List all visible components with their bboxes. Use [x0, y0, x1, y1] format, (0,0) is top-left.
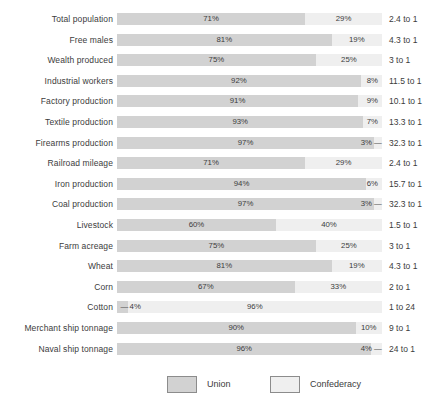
confederacy-percent-label: 40% — [276, 219, 382, 231]
row-label: Farm acreage — [0, 238, 113, 254]
ratio-label: 4.3 to 1 — [389, 258, 417, 274]
union-percent-label: 92% — [117, 75, 361, 87]
leader-dash-icon: — — [374, 198, 382, 210]
chart-row: Naval ship tonnage96%—4%24 to 1 — [0, 341, 444, 357]
ratio-label: 9 to 1 — [389, 320, 410, 336]
union-percent-label: 97% — [117, 137, 374, 149]
union-percent-label: 60% — [117, 219, 276, 231]
chart-row: Corn67%33%2 to 1 — [0, 279, 444, 295]
row-label: Iron production — [0, 176, 113, 192]
confederacy-percent-label: 3% — [346, 198, 372, 210]
legend-label-union: Union — [207, 376, 231, 393]
confederacy-percent-label: 4% — [346, 343, 372, 355]
ratio-label: 4.3 to 1 — [389, 32, 417, 48]
confederacy-percent-label: 25% — [316, 54, 382, 66]
union-percent-label: 97% — [117, 198, 374, 210]
union-percent-label: 75% — [117, 240, 316, 252]
legend-swatch-union-icon — [167, 376, 197, 393]
chart-row: Industrial workers92%8%11.5 to 1 — [0, 73, 444, 89]
union-percent-label: 67% — [117, 281, 295, 293]
ratio-label: 2.4 to 1 — [389, 11, 417, 27]
confederacy-percent-label: 10% — [356, 322, 383, 334]
row-label: Total population — [0, 11, 113, 27]
union-percent-label: 81% — [117, 34, 332, 46]
chart-row: Iron production94%6%15.7 to 1 — [0, 176, 444, 192]
row-label: Textile production — [0, 114, 113, 130]
row-label: Coal production — [0, 196, 113, 212]
union-percent-label: 75% — [117, 54, 316, 66]
chart-row: Factory production91%9%10.1 to 1 — [0, 93, 444, 109]
chart-row: Textile production93%7%13.3 to 1 — [0, 114, 444, 130]
chart-row: Farm acreage75%25%3 to 1 — [0, 238, 444, 254]
legend-label-confederacy: Confederacy — [310, 376, 361, 393]
chart-row: Wheat81%19%4.3 to 1 — [0, 258, 444, 274]
confederacy-percent-label: 96% — [128, 301, 382, 313]
row-label: Free males — [0, 32, 113, 48]
leader-dash-icon: — — [374, 343, 382, 355]
row-label: Industrial workers — [0, 73, 113, 89]
union-percent-label: 96% — [117, 343, 371, 355]
ratio-label: 2.4 to 1 — [389, 155, 417, 171]
row-label: Naval ship tonnage — [0, 341, 113, 357]
ratio-label: 10.1 to 1 — [389, 93, 422, 109]
confederacy-percent-label: 8% — [352, 75, 378, 87]
chart-row: Cotton—4%96%1 to 24 — [0, 299, 444, 315]
chart-row: Free males81%19%4.3 to 1 — [0, 32, 444, 48]
row-label: Wheat — [0, 258, 113, 274]
chart-row: Wealth produced75%25%3 to 1 — [0, 52, 444, 68]
union-percent-label: 71% — [117, 157, 305, 169]
ratio-label: 3 to 1 — [389, 238, 410, 254]
row-label: Corn — [0, 279, 113, 295]
ratio-label: 32.3 to 1 — [389, 135, 422, 151]
union-percent-label: 94% — [117, 178, 366, 190]
union-percent-label: 91% — [117, 95, 358, 107]
row-label: Merchant ship tonnage — [0, 320, 113, 336]
union-percent-label: 81% — [117, 260, 332, 272]
confederacy-percent-label: 19% — [332, 260, 382, 272]
legend-swatch-confederacy-icon — [270, 376, 300, 393]
ratio-label: 32.3 to 1 — [389, 196, 422, 212]
confederacy-percent-label: 29% — [305, 13, 382, 25]
confederacy-percent-label: 19% — [332, 34, 382, 46]
ratio-label: 1 to 24 — [389, 299, 415, 315]
ratio-label: 1.5 to 1 — [389, 217, 417, 233]
ratio-label: 11.5 to 1 — [389, 73, 421, 89]
row-label: Livestock — [0, 217, 113, 233]
confederacy-percent-label: 25% — [316, 240, 382, 252]
chart-legend: Union Confederacy — [0, 374, 444, 400]
chart-row: Coal production97%—3%32.3 to 1 — [0, 196, 444, 212]
comparison-bar-chart: Total population71%29%2.4 to 1Free males… — [0, 0, 444, 406]
union-percent-label: 90% — [117, 322, 356, 334]
ratio-label: 15.7 to 1 — [389, 176, 422, 192]
chart-row: Firearms production97%—3%32.3 to 1 — [0, 135, 444, 151]
confederacy-percent-label: 6% — [352, 178, 378, 190]
row-label: Firearms production — [0, 135, 113, 151]
confederacy-percent-label: 9% — [352, 95, 378, 107]
chart-row: Railroad mileage71%29%2.4 to 1 — [0, 155, 444, 171]
confederacy-percent-label: 7% — [352, 116, 378, 128]
chart-row: Livestock60%40%1.5 to 1 — [0, 217, 444, 233]
confederacy-percent-label: 29% — [305, 157, 382, 169]
chart-row: Merchant ship tonnage90%10%9 to 1 — [0, 320, 444, 336]
leader-dash-icon: — — [374, 137, 382, 149]
confederacy-percent-label: 3% — [346, 137, 372, 149]
ratio-label: 2 to 1 — [389, 279, 410, 295]
ratio-label: 3 to 1 — [389, 52, 410, 68]
row-label: Wealth produced — [0, 52, 113, 68]
chart-row: Total population71%29%2.4 to 1 — [0, 11, 444, 27]
union-percent-label: 71% — [117, 13, 305, 25]
row-label: Cotton — [0, 299, 113, 315]
confederacy-percent-label: 33% — [295, 281, 382, 293]
row-label: Railroad mileage — [0, 155, 113, 171]
ratio-label: 24 to 1 — [389, 341, 415, 357]
row-label: Factory production — [0, 93, 113, 109]
ratio-label: 13.3 to 1 — [389, 114, 422, 130]
union-percent-label: 93% — [117, 116, 363, 128]
